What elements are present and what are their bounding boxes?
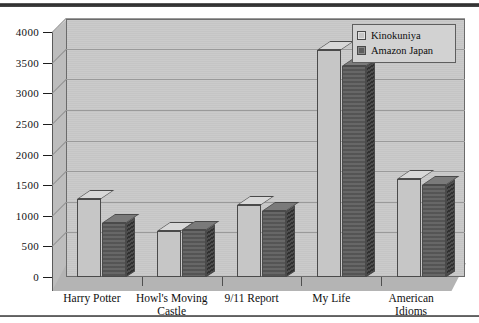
bar	[102, 223, 126, 277]
y-tick-label: 3500	[16, 57, 39, 69]
x-tick-mark	[142, 277, 143, 286]
bar	[182, 230, 206, 277]
legend-label: Amazon Japan	[371, 45, 433, 56]
bar	[342, 66, 366, 277]
y-tick-mark	[43, 185, 52, 186]
bar-front-face	[422, 185, 446, 277]
gridline	[66, 18, 465, 19]
chart-legend: Kinokuniya Amazon Japan	[352, 24, 456, 63]
y-tick-mark	[43, 63, 52, 64]
y-axis-line	[52, 32, 53, 291]
bar-side-face	[446, 179, 455, 277]
bar	[157, 231, 181, 277]
bar-side-face	[366, 60, 375, 277]
y-tick-mark	[43, 32, 52, 33]
y-tick-label: 1500	[16, 179, 39, 191]
bar-front-face	[102, 223, 126, 277]
bar	[262, 211, 286, 277]
y-tick-mark	[43, 155, 52, 156]
x-axis-category-label: My Life	[291, 292, 371, 305]
y-tick-label: 500	[22, 240, 39, 252]
light-gray-swatch	[357, 31, 366, 40]
y-tick-label: 1000	[16, 210, 39, 222]
bar-front-face	[262, 211, 286, 277]
bar-front-face	[317, 50, 341, 277]
y-tick-mark	[43, 246, 52, 247]
bar	[317, 50, 341, 277]
bar-chart-figure: 05001000150020002500300035004000 Harry P…	[0, 0, 479, 323]
gridline	[66, 110, 465, 111]
bar	[77, 199, 101, 277]
x-tick-mark	[301, 277, 302, 286]
y-tick-mark	[43, 277, 52, 278]
y-tick-mark	[43, 124, 52, 125]
x-axis-category-label: Howl's Moving Castle	[132, 292, 212, 318]
y-tick-label: 3000	[16, 87, 39, 99]
x-axis-category-label: 9/11 Report	[212, 292, 292, 305]
bar-front-face	[182, 230, 206, 277]
x-axis-category-label: Harry Potter	[52, 292, 132, 305]
bar-front-face	[237, 205, 261, 277]
figure-top-rule	[0, 3, 479, 7]
gridline	[66, 79, 465, 80]
legend-item-amazon-japan: Amazon Japan	[357, 43, 451, 58]
bar-front-face	[397, 179, 421, 277]
bar-front-face	[342, 66, 366, 277]
plot-front-edge	[66, 19, 67, 277]
bar-front-face	[77, 199, 101, 277]
bar	[422, 185, 446, 277]
bar-side-face	[126, 217, 135, 277]
y-tick-label: 2500	[16, 118, 39, 130]
x-tick-mark	[222, 277, 223, 286]
bar-side-face	[286, 205, 295, 277]
gridline	[66, 141, 465, 142]
dark-gray-swatch	[357, 46, 366, 55]
bar-side-face	[206, 225, 215, 277]
y-tick-label: 4000	[16, 26, 39, 38]
bar	[397, 179, 421, 277]
y-tick-mark	[43, 93, 52, 94]
y-tick-label: 2000	[16, 149, 39, 161]
bar-front-face	[157, 231, 181, 277]
y-tick-label: 0	[33, 271, 39, 283]
legend-label: Kinokuniya	[371, 30, 421, 41]
x-tick-mark	[381, 277, 382, 286]
y-tick-mark	[43, 216, 52, 217]
legend-item-kinokuniya: Kinokuniya	[357, 28, 451, 43]
bar	[237, 205, 261, 277]
x-axis-category-label: American Idioms	[371, 292, 451, 318]
